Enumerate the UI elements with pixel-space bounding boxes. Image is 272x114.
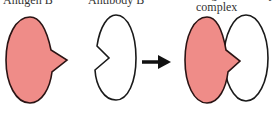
antibody-shape xyxy=(95,15,136,100)
antigen-shape xyxy=(6,17,67,103)
binding-diagram xyxy=(0,0,272,114)
right-arrow-icon xyxy=(142,55,171,69)
complex-shape xyxy=(185,15,268,103)
